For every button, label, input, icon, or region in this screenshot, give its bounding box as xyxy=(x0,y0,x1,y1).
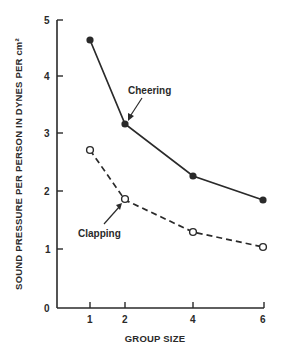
x-tick-1: 1 xyxy=(87,314,93,325)
y-axis-title: SOUND PRESSURE PER PERSON IN DYNES PER c… xyxy=(13,38,24,290)
y-tick-0: 0 xyxy=(44,303,50,314)
series-cheering-line xyxy=(90,40,263,200)
line-chart: 5 4 3 2 1 0 1 2 4 6 GROUP SIZE SOUND PRE… xyxy=(0,0,283,353)
x-tick-6: 6 xyxy=(260,314,266,325)
y-tick-5: 5 xyxy=(44,15,50,26)
x-axis-title: GROUP SIZE xyxy=(125,333,185,344)
annotation-cheering: Cheering xyxy=(128,85,171,96)
arrow-cheering-icon xyxy=(128,98,142,121)
x-tick-2: 2 xyxy=(122,314,128,325)
y-tick-4: 4 xyxy=(44,71,50,82)
y-tick-3: 3 xyxy=(44,128,50,139)
arrow-clapping-icon xyxy=(104,203,122,224)
x-ticks xyxy=(90,302,264,308)
y-tick-2: 2 xyxy=(44,186,50,197)
y-ticks xyxy=(57,20,63,249)
series-cheering-markers xyxy=(86,36,266,203)
annotation-clapping: Clapping xyxy=(78,228,121,239)
y-tick-1: 1 xyxy=(45,244,51,255)
x-tick-4: 4 xyxy=(190,314,196,325)
